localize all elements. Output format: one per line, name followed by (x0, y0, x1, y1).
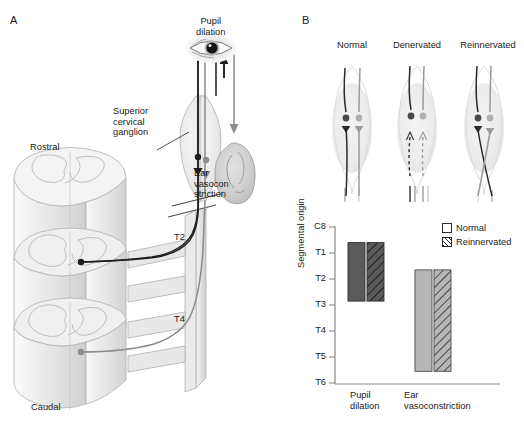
chart-y-axis-label: Segmental origin (296, 198, 306, 268)
xcat-ear-vasoconstriction: Ear vasoconstriction (404, 390, 471, 411)
chart-legend: Normal Reinnervated (442, 222, 511, 250)
ytick-t4: T4 (306, 325, 326, 335)
legend-entry-reinnervated: Reinnervated (442, 236, 511, 248)
figure-root: A B (0, 0, 524, 424)
bar-pupil-dilation-normal (348, 243, 365, 302)
legend-entry-normal: Normal (442, 222, 511, 234)
bar-ear-vasoconstriction-normal (415, 270, 432, 371)
ytick-t5: T5 (306, 351, 326, 361)
bar-pupil-dilation-reinnervated (367, 243, 384, 302)
bar-ear-vasoconstriction-reinnervated (434, 270, 451, 371)
legend-swatch-reinnervated (442, 237, 452, 247)
ytick-t3: T3 (306, 299, 326, 309)
ytick-t2: T2 (306, 273, 326, 283)
bar-group-ear-vasoconstriction (415, 270, 451, 371)
ytick-c8: C8 (306, 221, 326, 231)
xcat-pupil-dilation: Pupil dilation (350, 390, 379, 411)
segmental-origin-bar-chart (0, 0, 524, 424)
legend-swatch-normal (442, 223, 452, 233)
ytick-t6: T6 (306, 377, 326, 387)
legend-label-reinnervated: Reinnervated (456, 237, 511, 247)
legend-label-normal: Normal (456, 223, 486, 233)
ytick-t1: T1 (306, 247, 326, 257)
bar-group-pupil-dilation (348, 243, 384, 302)
